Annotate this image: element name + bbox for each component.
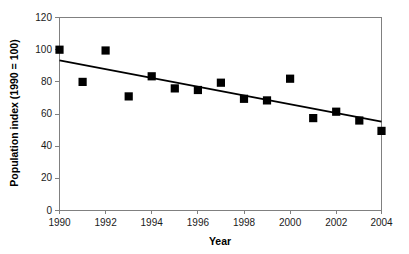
x-tick-label-1990: 1990 xyxy=(48,217,71,228)
data-point-2003 xyxy=(355,116,363,124)
data-point-1992 xyxy=(102,46,110,54)
y-tick-label-120: 120 xyxy=(35,12,52,23)
y-tick-label-60: 60 xyxy=(41,108,53,119)
data-point-1996 xyxy=(194,86,202,94)
chart-background xyxy=(0,0,409,254)
data-point-2001 xyxy=(309,114,317,122)
x-tick-label-1994: 1994 xyxy=(141,217,164,228)
chart-container: 0 20 40 60 80 100 120 1990 1992 1994 199… xyxy=(0,0,409,254)
population-index-scatter-chart: 0 20 40 60 80 100 120 1990 1992 1994 199… xyxy=(0,0,409,254)
y-tick-label-40: 40 xyxy=(41,140,53,151)
x-tick-label-1998: 1998 xyxy=(233,217,256,228)
y-tick-label-100: 100 xyxy=(35,44,52,55)
data-point-2004 xyxy=(377,127,385,135)
x-tick-label-1996: 1996 xyxy=(187,217,210,228)
data-point-1993 xyxy=(125,92,133,100)
x-tick-label-2002: 2002 xyxy=(325,217,348,228)
data-point-1991 xyxy=(79,78,87,86)
y-axis-title: Population index (1990 = 100) xyxy=(8,39,20,186)
x-axis-title: Year xyxy=(209,235,231,247)
y-tick-label-80: 80 xyxy=(41,76,53,87)
data-point-2002 xyxy=(332,108,340,116)
data-point-1999 xyxy=(263,96,271,104)
data-point-1997 xyxy=(217,79,225,87)
x-tick-label-2004: 2004 xyxy=(370,217,393,228)
data-point-1990 xyxy=(55,46,63,54)
data-point-1998 xyxy=(240,95,248,103)
x-tick-label-1992: 1992 xyxy=(94,217,117,228)
data-point-2000 xyxy=(286,75,294,83)
data-point-1995 xyxy=(171,84,179,92)
data-point-1994 xyxy=(148,72,156,80)
x-tick-label-2000: 2000 xyxy=(279,217,302,228)
y-tick-label-0: 0 xyxy=(46,205,52,216)
y-tick-label-20: 20 xyxy=(41,172,53,183)
